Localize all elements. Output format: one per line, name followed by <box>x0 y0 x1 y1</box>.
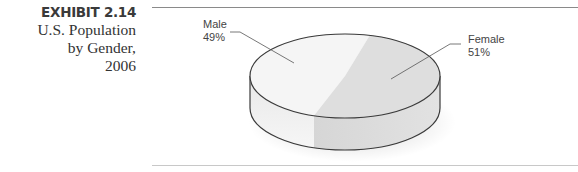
pie-chart: Male 49% Female 51% <box>0 0 578 172</box>
female-label: Female <box>468 33 505 45</box>
male-percent: 49% <box>203 31 225 43</box>
female-percent: 51% <box>468 46 490 58</box>
male-label: Male <box>203 18 227 30</box>
